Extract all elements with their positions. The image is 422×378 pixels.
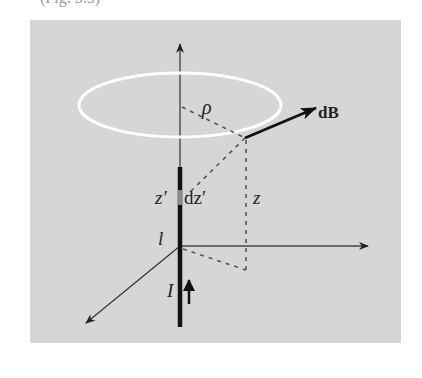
diagonal-axis	[86, 246, 180, 323]
l-label: l	[158, 228, 163, 249]
z-label: z	[252, 187, 261, 208]
z-prime-label: z′	[154, 187, 167, 208]
rho-dashed-line	[182, 107, 245, 138]
rho-label: ρ	[201, 96, 212, 119]
biot-savart-diagram: ρ dB z′ dz′ z l I	[0, 0, 422, 378]
dB-vector	[245, 108, 316, 138]
dB-label: dB	[318, 103, 339, 122]
current-label: I	[166, 280, 175, 301]
dz-prime-label: dz′	[184, 187, 206, 208]
projection-dashed-line	[183, 249, 246, 270]
